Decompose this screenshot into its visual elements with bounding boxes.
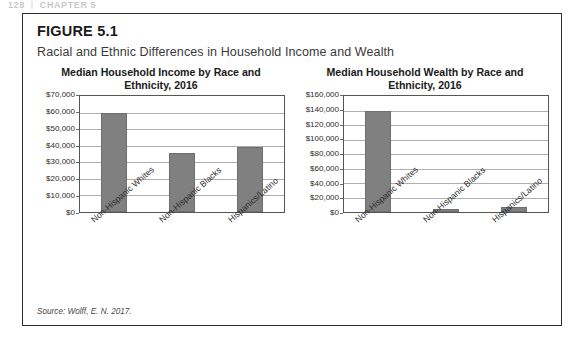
y-tick-label: $80,000 — [310, 150, 339, 158]
y-tick-label: $50,000 — [46, 125, 75, 133]
page-folio: 128 — [8, 0, 25, 9]
y-axis-wealth: $160,000$140,000$120,000$100,000$80,000$… — [291, 95, 343, 213]
y-tick-label: $160,000 — [306, 91, 339, 99]
y-tick-label: $100,000 — [306, 135, 339, 143]
y-tick-label: $120,000 — [306, 121, 339, 129]
y-tick-label: $60,000 — [46, 108, 75, 116]
chart-panel-income: Median Household Income by Race and Ethn… — [27, 66, 295, 296]
y-tick-label: $20,000 — [46, 175, 75, 183]
figure-label: FIGURE 5.1 — [37, 23, 118, 39]
x-axis-income: Non-Hispanic WhitesNon-Hispanic BlacksHi… — [79, 213, 285, 291]
y-tick-label: $140,000 — [306, 106, 339, 114]
figure-caption: Racial and Ethnic Differences in Househo… — [37, 45, 394, 59]
figure-source-note: Source: Wolff, E. N. 2017. — [37, 307, 132, 316]
running-head-separator: | — [31, 0, 34, 9]
y-axis-income: $70,000$60,000$50,000$40,000$30,000$20,0… — [27, 95, 79, 213]
y-tick-label: $0 — [330, 209, 339, 217]
page-running-head: 128|CHAPTER 5 — [8, 0, 96, 9]
y-tick-label: $0 — [66, 209, 75, 217]
y-tick-label: $20,000 — [310, 194, 339, 202]
y-tick-label: $10,000 — [46, 192, 75, 200]
figure-container: FIGURE 5.1 Racial and Ethnic Differences… — [22, 13, 562, 326]
chart-title-wealth: Median Household Wealth by Race and Ethn… — [291, 66, 559, 93]
y-tick-label: $60,000 — [310, 165, 339, 173]
chart-panel-wealth: Median Household Wealth by Race and Ethn… — [291, 66, 559, 296]
chart-title-income: Median Household Income by Race and Ethn… — [27, 66, 295, 93]
running-head-title: CHAPTER 5 — [40, 0, 96, 9]
x-axis-wealth: Non-Hispanic WhitesNon-Hispanic BlacksHi… — [343, 213, 549, 291]
y-tick-label: $40,000 — [46, 142, 75, 150]
y-tick-label: $70,000 — [46, 91, 75, 99]
y-tick-label: $30,000 — [46, 158, 75, 166]
y-tick-label: $40,000 — [310, 180, 339, 188]
